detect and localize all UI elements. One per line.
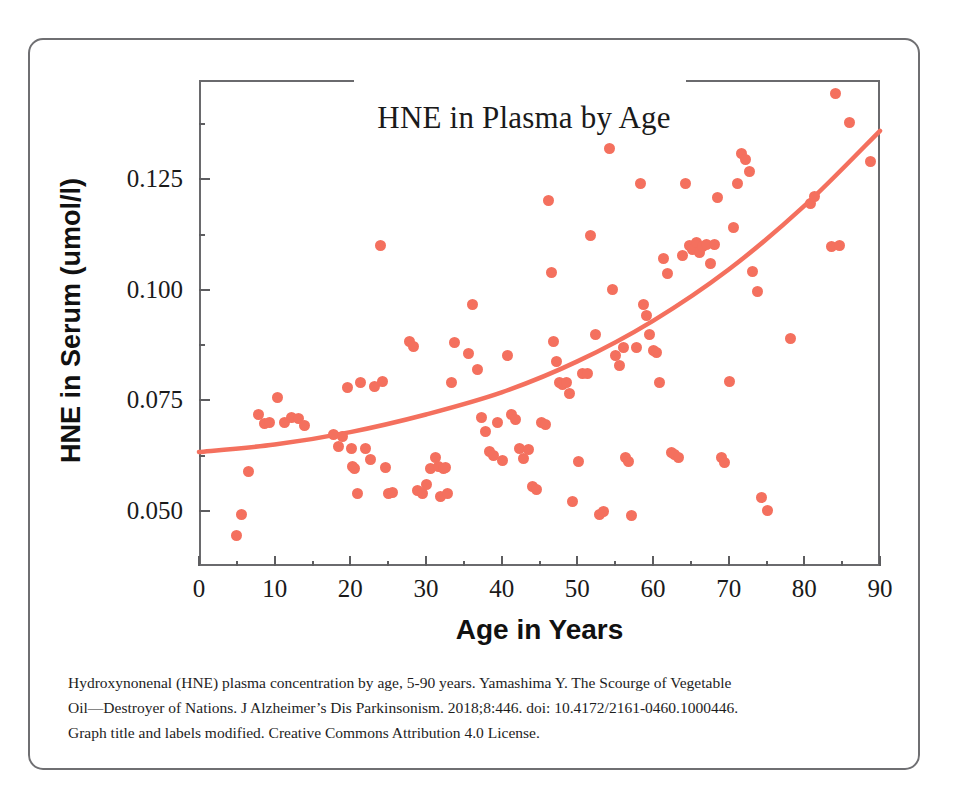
x-tick-minor [690, 561, 692, 566]
x-axis-title: Age in Years [199, 614, 880, 646]
x-tick-major [349, 556, 351, 566]
data-point [231, 530, 242, 541]
x-tick-label: 0 [193, 575, 206, 603]
x-tick-label: 40 [489, 575, 514, 603]
data-point [546, 267, 557, 278]
x-tick-minor [387, 561, 389, 566]
y-tick-major [199, 510, 210, 512]
x-tick-major [274, 556, 276, 566]
caption-line-1: Hydroxynonenal (HNE) plasma concentratio… [68, 670, 878, 695]
data-point [677, 250, 688, 261]
x-tick-major [576, 556, 578, 566]
data-point [618, 342, 629, 353]
data-point [333, 441, 344, 452]
data-point [651, 347, 662, 358]
data-point [337, 431, 348, 442]
x-tick-minor [841, 561, 843, 566]
data-point [644, 329, 655, 340]
x-tick-label: 90 [868, 575, 893, 603]
data-point [463, 348, 474, 359]
chart-title: HNE in Plasma by Age [354, 100, 694, 136]
x-tick-minor [539, 561, 541, 566]
title-border-gap [354, 78, 686, 83]
y-tick-minor [199, 344, 205, 346]
data-point [834, 240, 845, 251]
data-point [497, 455, 508, 466]
x-tick-major [501, 556, 503, 566]
data-point [264, 417, 275, 428]
data-point [590, 329, 601, 340]
data-point [472, 364, 483, 375]
x-tick-label: 10 [262, 575, 287, 603]
y-tick-minor [199, 455, 205, 457]
data-point [531, 484, 542, 495]
data-point [712, 192, 723, 203]
figure-card: 0.0500.0750.1000.125 0102030405060708090… [28, 38, 920, 770]
data-point [346, 443, 357, 454]
y-tick-major [199, 399, 210, 401]
data-point [236, 509, 247, 520]
data-point [830, 88, 841, 99]
data-point [623, 456, 634, 467]
data-point [631, 342, 642, 353]
data-point [502, 350, 513, 361]
data-point [352, 488, 363, 499]
y-tick-label: 0.050 [127, 497, 183, 525]
y-tick-label: 0.125 [127, 165, 183, 193]
data-point [380, 462, 391, 473]
data-point [635, 178, 646, 189]
data-point [510, 414, 521, 425]
x-tick-label: 60 [641, 575, 666, 603]
plot-area: 0.0500.0750.1000.125 0102030405060708090… [199, 80, 880, 566]
y-tick-minor [199, 234, 205, 236]
x-tick-label: 20 [338, 575, 363, 603]
data-point [604, 143, 615, 154]
data-point [719, 457, 730, 468]
data-point [740, 154, 751, 165]
x-tick-major [803, 556, 805, 566]
x-tick-major [728, 556, 730, 566]
x-tick-major [198, 556, 200, 566]
x-tick-minor [614, 561, 616, 566]
data-point [480, 426, 491, 437]
x-tick-major [425, 556, 427, 566]
data-point [626, 510, 637, 521]
y-tick-major [199, 289, 210, 291]
data-point [387, 487, 398, 498]
y-tick-major [199, 178, 210, 180]
data-point [523, 444, 534, 455]
data-point [654, 377, 665, 388]
y-tick-minor [199, 123, 205, 125]
data-point [762, 505, 773, 516]
data-point [752, 286, 763, 297]
data-point [582, 368, 593, 379]
data-point [705, 258, 716, 269]
x-tick-label: 80 [792, 575, 817, 603]
data-point [540, 419, 551, 430]
y-tick-label: 0.100 [127, 276, 183, 304]
data-point [342, 382, 353, 393]
x-tick-minor [312, 561, 314, 566]
x-tick-minor [236, 561, 238, 566]
x-tick-label: 50 [565, 575, 590, 603]
x-tick-minor [463, 561, 465, 566]
x-tick-major [652, 556, 654, 566]
data-point [744, 166, 755, 177]
data-point [564, 388, 575, 399]
data-point [756, 492, 767, 503]
y-tick-label: 0.075 [127, 386, 183, 414]
y-axis-title: HNE in Serum (umol/l) [56, 111, 87, 531]
x-tick-minor [766, 561, 768, 566]
figure-caption: Hydroxynonenal (HNE) plasma concentratio… [68, 670, 878, 745]
data-point [365, 454, 376, 465]
caption-line-3: Graph title and labels modified. Creativ… [68, 720, 878, 745]
data-point [598, 506, 609, 517]
data-point [728, 222, 739, 233]
x-tick-major [879, 556, 881, 566]
x-tick-label: 70 [716, 575, 741, 603]
x-tick-label: 30 [414, 575, 439, 603]
caption-line-2: Oil—Destroyer of Nations. J Alzheimer’s … [68, 695, 878, 720]
data-point [421, 479, 432, 490]
